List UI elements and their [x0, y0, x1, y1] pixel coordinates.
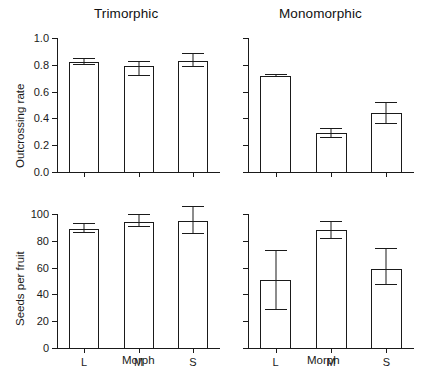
bar-L — [260, 76, 291, 172]
x-axis-tick-label-L: L — [273, 356, 279, 368]
error-bar-cap-lower — [320, 137, 342, 138]
y-axis-tick — [243, 348, 248, 349]
y-axis-tick-label: 40 — [37, 288, 49, 300]
error-bar-cap-upper — [375, 102, 397, 103]
x-axis-tick-label-M: M — [134, 356, 143, 368]
x-axis-tick — [276, 348, 277, 353]
error-bar-cap-upper — [128, 61, 150, 62]
y-axis-tick — [52, 268, 57, 269]
y-axis-tick-label: 1.0 — [34, 32, 49, 44]
y-axis-tick — [52, 241, 57, 242]
error-bar-cap-lower — [265, 309, 287, 310]
y-axis-tick — [243, 214, 248, 215]
error-bar-stem — [138, 214, 139, 227]
error-bar-M — [124, 214, 154, 227]
error-bar-stem — [331, 221, 332, 240]
error-bar-cap-lower — [182, 66, 204, 67]
x-axis-tick — [386, 348, 387, 353]
y-axis-tick — [52, 172, 57, 173]
y-axis-tick — [243, 172, 248, 173]
error-bar-M — [316, 128, 347, 139]
x-axis-tick — [193, 172, 194, 177]
x-axis-tick — [276, 172, 277, 177]
error-bar-M — [316, 221, 347, 240]
error-bar-cap-lower — [73, 64, 95, 65]
y-axis-line — [57, 38, 58, 172]
y-axis-tick — [52, 321, 57, 322]
x-axis-tick — [84, 172, 85, 177]
y-axis-tick-label: 0.8 — [34, 59, 49, 71]
error-bar-L — [260, 250, 291, 310]
y-axis-line — [57, 214, 58, 348]
y-axis-tick — [243, 294, 248, 295]
y-axis-tick-label: 0 — [43, 342, 49, 354]
bar-S — [178, 61, 208, 172]
error-bar-cap-upper — [73, 58, 95, 59]
bar-M — [316, 230, 347, 348]
error-bar-cap-lower — [73, 232, 95, 233]
plot-outcrossing-trimorphic: 0.00.20.40.60.81.0 — [57, 38, 220, 172]
error-bar-stem — [192, 206, 193, 234]
y-axis-tick-label: 80 — [37, 235, 49, 247]
error-bar-L — [69, 223, 99, 232]
y-axis-tick — [52, 92, 57, 93]
chart-row-seeds: 020406080100LMS LMS — [0, 188, 439, 376]
y-axis-tick — [243, 268, 248, 269]
error-bar-stem — [386, 248, 387, 286]
x-axis-tick — [331, 348, 332, 353]
bar-M — [124, 66, 154, 172]
error-bar-cap-upper — [265, 250, 287, 251]
error-bar-S — [371, 248, 402, 286]
x-axis-tick — [386, 172, 387, 177]
error-bar-cap-upper — [182, 206, 204, 207]
figure-panel-grid: Trimorphic Monomorphic Outcrossing rate … — [0, 0, 439, 376]
error-bar-L — [260, 74, 291, 77]
bar-M — [124, 222, 154, 348]
x-axis-tick-label-S: S — [189, 356, 196, 368]
error-bar-stem — [386, 102, 387, 123]
y-axis-tick — [52, 38, 57, 39]
x-axis-tick — [139, 172, 140, 177]
bar-S — [178, 221, 208, 348]
y-axis-tick — [243, 92, 248, 93]
error-bar-cap-lower — [128, 226, 150, 227]
y-axis-tick-label: 0.2 — [34, 139, 49, 151]
y-axis-tick — [243, 118, 248, 119]
y-axis-tick — [52, 348, 57, 349]
error-bar-cap-lower — [375, 123, 397, 124]
plot-seeds-monomorphic: LMS — [248, 214, 414, 348]
error-bar-cap-upper — [375, 248, 397, 249]
y-axis-tick-label: 0.0 — [34, 166, 49, 178]
error-bar-cap-lower — [265, 76, 287, 77]
error-bar-L — [69, 58, 99, 65]
y-axis-line — [248, 38, 249, 172]
error-bar-cap-upper — [320, 221, 342, 222]
bar-L — [69, 229, 99, 348]
y-axis-tick — [52, 118, 57, 119]
x-axis-tick — [84, 348, 85, 353]
error-bar-S — [371, 102, 402, 123]
error-bar-stem — [192, 53, 193, 68]
plot-outcrossing-monomorphic — [248, 38, 414, 172]
y-axis-tick — [243, 241, 248, 242]
error-bar-cap-upper — [182, 53, 204, 54]
y-axis-tick — [243, 145, 248, 146]
y-axis-tick-label: 0.4 — [34, 112, 49, 124]
error-bar-cap-upper — [73, 223, 95, 224]
y-axis-tick-label: 20 — [37, 315, 49, 327]
error-bar-cap-lower — [128, 75, 150, 76]
x-axis-tick-label-S: S — [383, 356, 390, 368]
error-bar-cap-lower — [182, 233, 204, 234]
y-axis-tick-label: 100 — [31, 208, 49, 220]
x-axis-tick-label-M: M — [326, 356, 335, 368]
x-axis-tick — [193, 348, 194, 353]
y-axis-tick — [243, 321, 248, 322]
plot-seeds-trimorphic: 020406080100LMS — [57, 214, 220, 348]
y-axis-tick-label: 0.6 — [34, 86, 49, 98]
chart-row-outcrossing: 0.00.20.40.60.81.0 — [0, 0, 439, 188]
error-bar-cap-lower — [320, 238, 342, 239]
y-axis-line — [248, 214, 249, 348]
error-bar-stem — [275, 250, 276, 310]
y-axis-tick — [52, 294, 57, 295]
error-bar-S — [178, 53, 208, 68]
